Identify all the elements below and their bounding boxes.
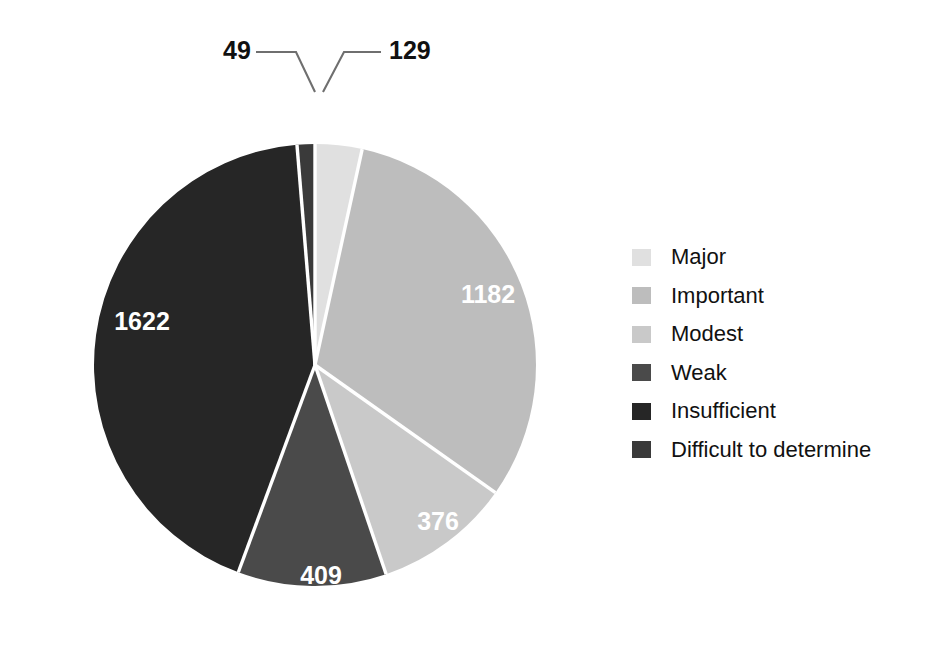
legend-item-weak[interactable]: Weak [632,354,932,393]
chart-legend: MajorImportantModestWeakInsufficientDiff… [632,238,932,469]
legend-swatch-icon [632,249,651,266]
legend-item-modest[interactable]: Modest [632,315,932,354]
legend-item-label: Difficult to determine [671,439,871,461]
legend-item-label: Major [671,246,726,268]
pie-label-difficult-to-determine: 49 [223,36,251,64]
legend-swatch-icon [632,326,651,343]
leader-line-major [323,52,381,92]
pie-label-weak: 409 [300,561,342,589]
legend-swatch-icon [632,403,651,420]
pie-label-important: 1182 [461,280,515,308]
legend-item-major[interactable]: Major [632,238,932,277]
legend-item-important[interactable]: Important [632,277,932,316]
legend-item-insufficient[interactable]: Insufficient [632,392,932,431]
leader-line-difficult [256,52,315,92]
legend-item-label: Weak [671,362,727,384]
legend-swatch-icon [632,364,651,381]
pie-callout-label-group: 49 129 [223,36,431,64]
legend-swatch-icon [632,441,651,458]
pie-callout-leader-group [256,52,381,92]
pie-label-major: 129 [389,36,431,64]
pie-label-modest: 376 [417,507,459,535]
legend-swatch-icon [632,287,651,304]
legend-item-label: Insufficient [671,400,776,422]
legend-item-label: Important [671,285,764,307]
legend-item-label: Modest [671,323,743,345]
pie-label-insufficient: 1622 [114,307,170,335]
legend-item-difficult-to-determine[interactable]: Difficult to determine [632,431,932,470]
pie-chart-figure: 1182 376 409 1622 49 129 MajorImportantM… [0,0,947,661]
